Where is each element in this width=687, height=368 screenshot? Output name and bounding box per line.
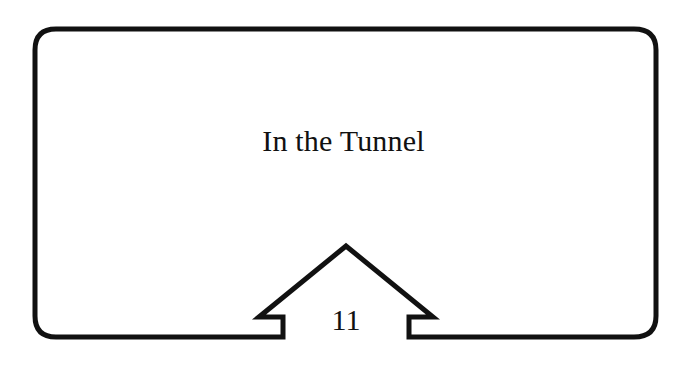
page-title: In the Tunnel <box>0 124 687 158</box>
card-border <box>35 29 656 337</box>
page-number: 11 <box>296 303 396 337</box>
